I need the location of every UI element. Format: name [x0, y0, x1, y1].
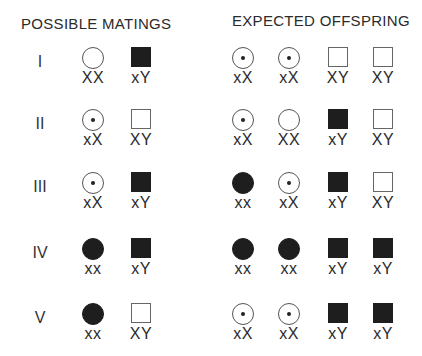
genotype-label: xY	[363, 260, 403, 278]
genotype-label: xX	[223, 325, 263, 343]
affected-male-icon	[373, 303, 393, 323]
genotype-label: xY	[318, 131, 358, 149]
unaffected-male-icon	[131, 303, 151, 323]
genotype-label: xY	[318, 194, 358, 212]
genotype-label: xx	[73, 260, 113, 278]
mating-numeral: IV	[20, 244, 60, 262]
carrier-female-icon	[82, 109, 104, 131]
carrier-female-icon	[232, 303, 254, 325]
affected-female-icon	[232, 172, 254, 194]
carrier-female-icon	[232, 109, 254, 131]
mating-numeral: I	[20, 53, 60, 71]
carrier-female-icon	[278, 303, 300, 325]
affected-female-icon	[82, 303, 104, 325]
mating-numeral: V	[20, 309, 60, 327]
genotype-label: XX	[269, 131, 309, 149]
genotype-label: xX	[269, 194, 309, 212]
mating-numeral: II	[20, 115, 60, 133]
carrier-female-icon	[278, 47, 300, 69]
genotype-label: xY	[121, 260, 161, 278]
affected-male-icon	[131, 47, 151, 67]
possible-matings-heading: POSSIBLE MATINGS	[21, 15, 171, 32]
affected-female-icon	[278, 238, 300, 260]
genotype-label: xX	[73, 194, 113, 212]
genotype-label: xx	[223, 260, 263, 278]
genotype-label: xX	[269, 69, 309, 87]
affected-male-icon	[131, 238, 151, 258]
unaffected-male-icon	[328, 47, 348, 67]
genotype-label: XY	[363, 131, 403, 149]
affected-male-icon	[373, 238, 393, 258]
genotype-label: xx	[223, 194, 263, 212]
genotype-label: xY	[121, 69, 161, 87]
affected-female-icon	[82, 238, 104, 260]
affected-male-icon	[328, 303, 348, 323]
genotype-label: XY	[363, 194, 403, 212]
genotype-label: xY	[363, 325, 403, 343]
genotype-label: xY	[318, 325, 358, 343]
affected-female-icon	[232, 238, 254, 260]
unaffected-female-icon	[82, 47, 104, 69]
genotype-label: XY	[363, 69, 403, 87]
genotype-label: xx	[269, 260, 309, 278]
genotype-label: xx	[73, 325, 113, 343]
carrier-female-icon	[278, 172, 300, 194]
genotype-label: XY	[318, 69, 358, 87]
affected-male-icon	[328, 172, 348, 192]
genotype-label: xX	[269, 325, 309, 343]
affected-male-icon	[328, 238, 348, 258]
carrier-female-icon	[82, 172, 104, 194]
affected-male-icon	[328, 109, 348, 129]
unaffected-male-icon	[131, 109, 151, 129]
genotype-label: xY	[121, 194, 161, 212]
unaffected-male-icon	[373, 172, 393, 192]
genotype-label: xX	[223, 131, 263, 149]
carrier-female-icon	[232, 47, 254, 69]
affected-male-icon	[131, 172, 151, 192]
unaffected-male-icon	[373, 47, 393, 67]
expected-offspring-heading: EXPECTED OFFSPRING	[232, 12, 410, 29]
genotype-label: xY	[318, 260, 358, 278]
unaffected-female-icon	[278, 109, 300, 131]
genotype-label: XY	[121, 131, 161, 149]
genotype-label: XX	[73, 69, 113, 87]
genotype-label: XY	[121, 325, 161, 343]
genotype-label: xX	[73, 131, 113, 149]
unaffected-male-icon	[373, 109, 393, 129]
genotype-label: xX	[223, 69, 263, 87]
mating-numeral: III	[20, 178, 60, 196]
